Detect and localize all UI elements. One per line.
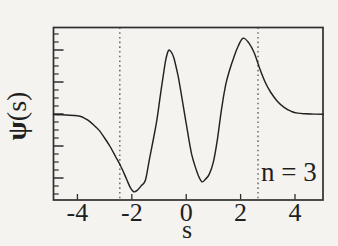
x-tick-label: -4: [67, 198, 89, 227]
dotted-vlines: [120, 28, 258, 201]
wavelet-figure: -4-2024 s ψ(s) n = 3: [0, 0, 338, 246]
psi-symbol: ψ: [1, 121, 32, 140]
y-axis-label: ψ(s): [1, 92, 32, 141]
y-axis-label-rest: (s): [1, 92, 32, 122]
x-tick-label: -2: [121, 198, 143, 227]
order-annotation: n = 3: [261, 157, 317, 187]
x-tick-label: 2: [234, 198, 247, 227]
x-axis-label: s: [182, 215, 192, 244]
x-tick-label: 4: [288, 198, 301, 227]
wavelet-plot-svg: -4-2024 s ψ(s) n = 3: [0, 0, 338, 246]
